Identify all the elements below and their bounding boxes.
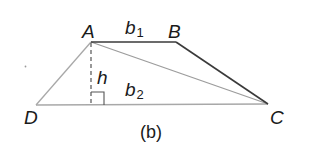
b1-base-text: b [125,17,136,38]
stray-dot [25,66,27,68]
height-label-h: h [97,68,108,87]
right-angle-marker [91,92,104,105]
b2-subscript: 2 [137,87,144,102]
segment-dc-base-b2 [36,104,268,105]
base-label-b2: b2 [125,80,144,101]
base-label-b1: b1 [125,18,144,39]
vertex-label-c: C [270,108,284,127]
segment-ac-diagonal [91,42,268,104]
figure-caption: (b) [140,123,162,141]
vertex-label-b: B [168,22,181,41]
b2-base-text: b [125,79,136,100]
segment-bc-leg [176,42,268,104]
vertex-label-a: A [82,22,95,41]
b1-subscript: 1 [137,25,144,40]
vertex-label-d: D [24,108,38,127]
segment-ad-leg [36,42,91,105]
